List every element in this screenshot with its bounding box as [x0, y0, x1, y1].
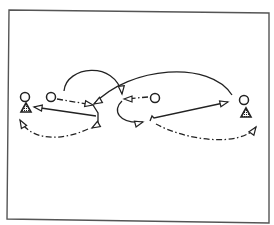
- arrowhead-icon: [85, 101, 94, 108]
- cut-arc-left-path: [64, 70, 122, 94]
- arrowhead-icon: [91, 121, 101, 130]
- arrowhead-icon: [34, 104, 43, 111]
- cut-arc-right-path: [94, 72, 232, 104]
- dashed-curve-left-path: [20, 120, 88, 137]
- arrowhead-icon: [134, 119, 143, 127]
- drive-right-path: [150, 102, 228, 121]
- line-to-left-triangle-path: [34, 107, 96, 116]
- play-diagram-canvas: [0, 0, 274, 225]
- offense-player-circle-icon: [21, 93, 30, 102]
- offense-player-circle-icon: [47, 93, 56, 102]
- offense-player-circle-icon: [151, 94, 160, 103]
- defense-player-triangle-icon: [241, 108, 251, 117]
- arrowhead-icon: [249, 125, 259, 135]
- play-diagram: [0, 0, 274, 225]
- arrowhead-icon: [124, 96, 132, 102]
- offense-player-circle-icon: [240, 96, 249, 105]
- curl-center-path: [117, 101, 143, 122]
- dashed-curve-right-path: [156, 124, 256, 140]
- arrowhead-icon: [118, 86, 125, 94]
- defense-player-triangle-icon: [21, 103, 31, 112]
- diagram-frame: [7, 10, 269, 223]
- arrowhead-icon: [220, 99, 229, 107]
